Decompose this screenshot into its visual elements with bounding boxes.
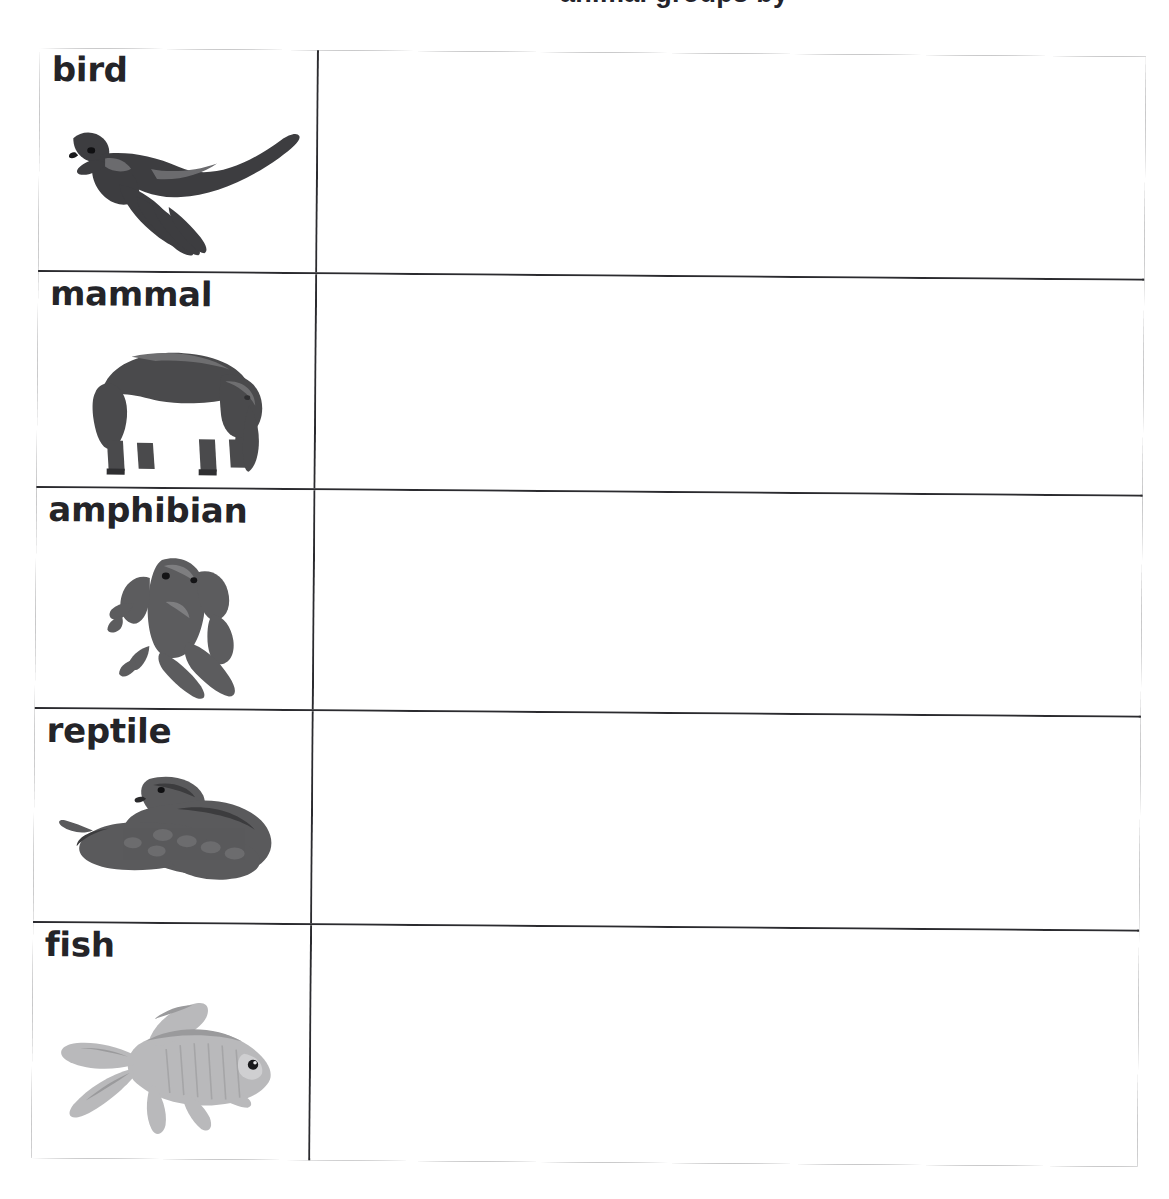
group-label: bird bbox=[52, 52, 128, 87]
answer-cell-mammal[interactable] bbox=[316, 274, 1145, 494]
page-header-strip: animal groups by bbox=[0, 0, 1169, 14]
group-cell-reptile: reptile bbox=[33, 709, 314, 923]
group-label: amphibian bbox=[48, 492, 247, 528]
goldfish-photo bbox=[31, 982, 309, 1144]
classification-table: bird bbox=[31, 48, 1146, 1167]
group-label: fish bbox=[45, 927, 115, 962]
group-cell-bird: bird bbox=[38, 48, 319, 272]
table-row: bird bbox=[38, 48, 1146, 279]
page-header-text: animal groups by bbox=[560, 0, 788, 9]
group-label: reptile bbox=[47, 713, 172, 748]
group-label: mammal bbox=[50, 276, 212, 311]
table-row: fish bbox=[31, 921, 1139, 1167]
group-cell-amphibian: amphibian bbox=[35, 488, 316, 709]
table-row: amphibian bbox=[35, 486, 1143, 716]
answer-cell-amphibian[interactable] bbox=[314, 490, 1143, 715]
answer-cell-fish[interactable] bbox=[310, 925, 1139, 1166]
table-row: mammal bbox=[37, 270, 1145, 495]
elephant-photo bbox=[37, 330, 315, 482]
frog-photo bbox=[35, 541, 313, 703]
falcon-photo bbox=[38, 110, 316, 262]
group-cell-mammal: mammal bbox=[37, 272, 318, 488]
snake-photo bbox=[33, 757, 311, 899]
group-cell-fish: fish bbox=[31, 923, 312, 1160]
answer-cell-reptile[interactable] bbox=[312, 711, 1141, 929]
table-row: reptile bbox=[33, 707, 1141, 930]
answer-cell-bird[interactable] bbox=[317, 50, 1146, 278]
